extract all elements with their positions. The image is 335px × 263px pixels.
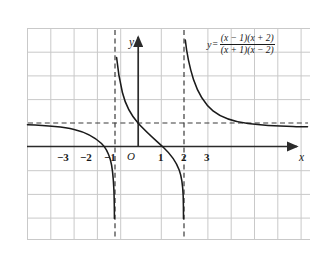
x-tick-label-neg3: −3 <box>57 152 69 163</box>
grid-lines <box>27 28 310 240</box>
rational-function-graph-figure: −3 −2 −1 1 2 3 O x y y = (x − 1)(x + 2) … <box>0 0 335 263</box>
curve-branch-left <box>28 125 115 219</box>
equation-fraction: (x − 1)(x + 2) (x + 1)(x − 2) <box>220 33 275 56</box>
x-tick-label-1: 1 <box>158 152 164 163</box>
x-tick-label-2: 2 <box>181 152 187 163</box>
graph-canvas <box>0 0 335 263</box>
equation-equals-sign: = <box>212 39 219 49</box>
equation-denominator: (x + 1)(x − 2) <box>220 45 275 55</box>
asymptote-lines <box>28 30 308 238</box>
origin-label: O <box>127 151 135 162</box>
x-tick-label-3: 3 <box>204 152 210 163</box>
equation-numerator: (x − 1)(x + 2) <box>220 33 275 43</box>
y-axis-label: y <box>129 37 134 49</box>
x-tick-label-neg2: −2 <box>80 152 92 163</box>
x-axis-label: x <box>299 152 304 164</box>
equation-annotation: y = (x − 1)(x + 2) (x + 1)(x − 2) <box>207 33 275 56</box>
x-tick-label-neg1: −1 <box>104 152 116 163</box>
function-curves <box>28 40 308 219</box>
